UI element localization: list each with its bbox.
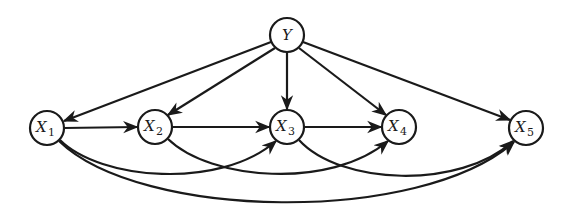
node-x5-subscript: 5	[527, 126, 534, 139]
edge-x1-to-x2	[64, 127, 137, 128]
node-x2-subscript: 2	[156, 125, 163, 138]
edge-y-to-x5	[303, 42, 510, 120]
edge-y-to-x1	[64, 42, 271, 121]
node-x3: X 3	[270, 110, 304, 144]
node-x4-label: X	[387, 117, 400, 135]
edge-x1-to-x3	[60, 140, 276, 174]
node-x4: X 4	[382, 110, 416, 144]
node-x1: X 1	[30, 111, 64, 145]
edge-y-to-x2	[168, 48, 275, 115]
node-x5: X 5	[509, 111, 543, 145]
node-x4-subscript: 4	[400, 125, 407, 138]
node-y: Y	[270, 18, 304, 52]
node-x1-subscript: 1	[48, 126, 55, 139]
node-x5-label: X	[514, 118, 527, 136]
edge-x3-to-x5	[299, 140, 513, 176]
node-x2-label: X	[143, 117, 156, 135]
dag-diagram: Y X 1 X 2 X 3 X 4 X 5	[0, 0, 572, 216]
node-x1-label: X	[35, 118, 48, 136]
node-x3-label: X	[275, 117, 288, 135]
node-x3-subscript: 3	[288, 125, 295, 138]
node-x2: X 2	[138, 110, 172, 144]
